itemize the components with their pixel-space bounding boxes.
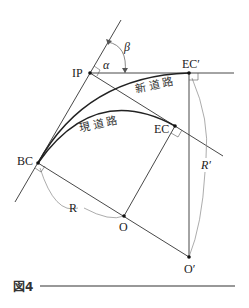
label-alpha: α xyxy=(103,58,110,72)
point-ec xyxy=(173,124,177,128)
tangent-line-bc-ip xyxy=(15,20,121,202)
radius-line-ec-o xyxy=(124,126,175,216)
label-r-prime: R′ xyxy=(200,158,211,172)
point-bc xyxy=(36,161,40,165)
label-o-prime: O′ xyxy=(184,262,196,276)
label-o: O xyxy=(119,220,128,234)
point-ec-prime xyxy=(187,71,191,75)
r-dimension-arc xyxy=(40,168,124,218)
point-o xyxy=(122,214,126,218)
label-current-road: 現道路 xyxy=(78,113,122,135)
label-ec-prime: EC′ xyxy=(182,57,200,71)
beta-arrowhead xyxy=(122,68,128,73)
point-o-prime xyxy=(187,255,191,259)
point-ip xyxy=(88,71,92,75)
right-angle-mark-ip xyxy=(94,66,100,76)
label-ip: IP xyxy=(72,66,83,80)
figure-caption: 図4 xyxy=(13,280,33,294)
label-ec: EC xyxy=(154,122,169,136)
label-bc: BC xyxy=(17,154,33,168)
label-beta: β xyxy=(123,40,130,54)
radius-line-bc-o-oprime xyxy=(38,163,189,257)
curve-geometry-diagram: IP EC′ EC BC O O′ R R′ α β 新道路 現道路 図4 xyxy=(0,0,249,308)
label-r: R xyxy=(69,201,77,215)
